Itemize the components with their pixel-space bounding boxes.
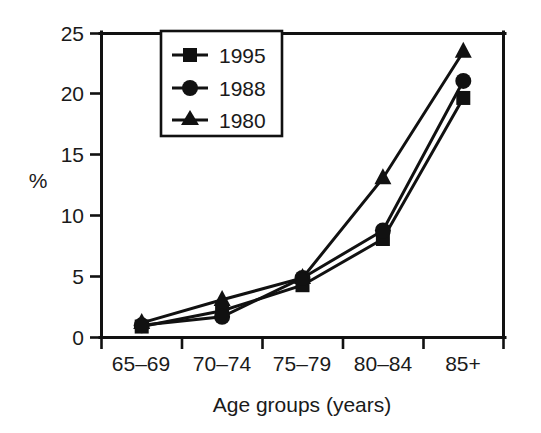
chart-figure: 0 5 10 15 20 25 % 65–69 70–74 75–79 80–8… (0, 0, 541, 433)
legend-label-1988: 1988 (219, 77, 266, 100)
y-tick-label-25: 25 (61, 22, 84, 45)
legend-label-1995: 1995 (219, 44, 266, 67)
x-tick-labels: 65–69 70–74 75–79 80–84 85+ (112, 352, 481, 375)
y-tick-marks (90, 34, 102, 338)
x-tick-label-75-79: 75–79 (273, 352, 331, 375)
circle-marker (182, 80, 198, 96)
square-marker (183, 48, 197, 62)
triangle-marker (455, 42, 472, 58)
y-tick-label-15: 15 (61, 143, 84, 166)
y-tick-label-5: 5 (72, 265, 84, 288)
line-chart: 0 5 10 15 20 25 % 65–69 70–74 75–79 80–8… (0, 0, 541, 433)
y-tick-label-0: 0 (72, 326, 84, 349)
x-tick-label-85-plus: 85+ (445, 352, 481, 375)
x-tick-label-65-69: 65–69 (112, 352, 170, 375)
y-tick-label-10: 10 (61, 204, 84, 227)
y-axis-title: % (29, 169, 48, 192)
circle-marker (455, 73, 471, 89)
x-axis-title: Age groups (years) (213, 393, 392, 416)
y-tick-label-20: 20 (61, 82, 84, 105)
circle-marker (214, 309, 230, 325)
x-tick-label-80-84: 80–84 (354, 352, 413, 375)
legend-label-1980: 1980 (219, 109, 266, 132)
y-tick-labels: 0 5 10 15 20 25 (61, 22, 84, 349)
x-tick-marks (102, 338, 504, 350)
x-tick-label-70-74: 70–74 (193, 352, 252, 375)
chart-legend: 1995 1988 1980 (161, 31, 282, 136)
circle-marker (375, 222, 391, 238)
